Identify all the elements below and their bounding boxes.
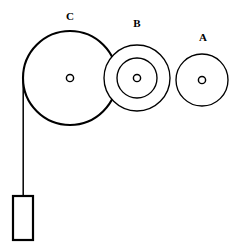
pulley-diagram: C B A xyxy=(0,0,237,251)
pulley-c-hub-icon xyxy=(66,74,73,81)
hanging-weight xyxy=(13,196,33,240)
pulley-a xyxy=(176,54,228,106)
pulley-a-hub-icon xyxy=(198,76,205,83)
pulley-b xyxy=(104,45,170,111)
pulley-label-b: B xyxy=(133,17,141,29)
pulley-label-a: A xyxy=(199,31,207,43)
diagram-canvas: C B A xyxy=(0,0,237,251)
pulley-label-c: C xyxy=(66,10,74,22)
pulley-b-hub-icon xyxy=(133,74,140,81)
pulley-c xyxy=(23,31,117,125)
